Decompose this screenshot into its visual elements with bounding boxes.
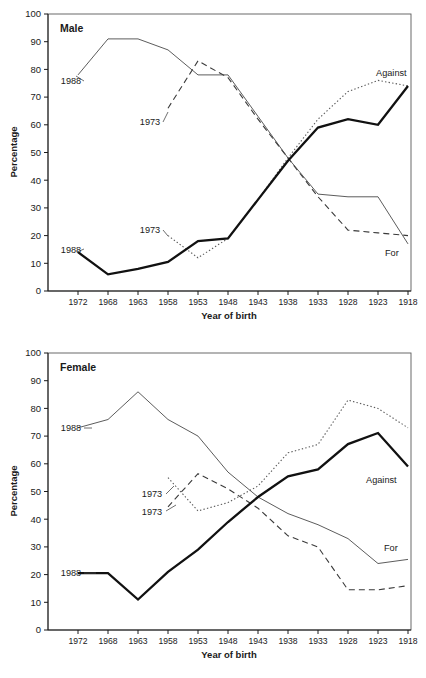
- y-tick-label: 90: [30, 375, 41, 386]
- y-tick-label: 0: [36, 624, 41, 635]
- y-tick-label: 40: [30, 175, 41, 186]
- male-chart-svg: 0 10 20 30 40 50 60 70 80 90 100: [0, 0, 426, 339]
- plot-frame: [48, 353, 411, 630]
- edge-label-for: For: [384, 543, 398, 553]
- x-tick-labels: 1972 1968 1963 1958 1953 1948 1943 1938 …: [68, 297, 417, 307]
- x-tick-label: 1968: [98, 297, 117, 307]
- x-tick-label: 1963: [128, 636, 147, 646]
- figure-page: 0 10 20 30 40 50 60 70 80 90 100: [0, 0, 426, 678]
- annotation-1988-for: 1988: [61, 423, 81, 433]
- x-tick-label: 1948: [218, 297, 237, 307]
- y-tick-label: 100: [25, 8, 41, 19]
- x-tick-label: 1928: [338, 636, 357, 646]
- y-tick-labels: 0 10 20 30 40 50 60 70 80 90 100: [25, 8, 41, 296]
- chart-panel-male: 0 10 20 30 40 50 60 70 80 90 100: [0, 0, 426, 339]
- x-tick-label: 1923: [368, 636, 387, 646]
- y-tick-label: 30: [30, 541, 41, 552]
- series-line-1973-for: [168, 61, 408, 236]
- y-tick-label: 20: [30, 230, 41, 241]
- panel-title-female: Female: [60, 361, 96, 373]
- x-tick-label: 1933: [308, 636, 327, 646]
- x-tick-label: 1972: [68, 297, 87, 307]
- y-tick-label: 60: [30, 458, 41, 469]
- x-tick-label: 1972: [68, 636, 87, 646]
- annotation-1988-against: 1988: [61, 245, 81, 255]
- annotation-1973-for: 1973: [142, 489, 162, 499]
- series-line-1988-against: [78, 433, 408, 600]
- series-line-1973-against: [168, 80, 408, 257]
- y-axis-title: Percentage: [8, 126, 19, 177]
- x-tick-label: 1963: [128, 297, 147, 307]
- annotation-1973-against: 1973: [140, 225, 160, 235]
- x-tick-label: 1928: [338, 297, 357, 307]
- y-tick-label: 90: [30, 36, 41, 47]
- annotation-1988-for: 1988: [61, 76, 81, 86]
- x-tick-label: 1958: [158, 636, 177, 646]
- x-tick-label: 1938: [278, 297, 297, 307]
- series-line-1988-against: [78, 86, 408, 274]
- female-chart-svg: 0 10 20 30 40 50 60 70 80 90 100: [0, 339, 426, 678]
- y-tick-label: 70: [30, 91, 41, 102]
- x-tick-label: 1953: [188, 297, 207, 307]
- y-tick-label: 60: [30, 119, 41, 130]
- annotation-1973-against: 1973: [142, 507, 162, 517]
- y-tick-label: 100: [25, 347, 41, 358]
- y-tick-label: 20: [30, 569, 41, 580]
- x-tick-label: 1918: [398, 636, 417, 646]
- x-tick-marks: [78, 291, 408, 295]
- x-tick-marks: [78, 630, 408, 634]
- series-line-1988-for: [78, 39, 408, 244]
- x-axis-title: Year of birth: [201, 649, 257, 660]
- series-line-1973-for: [168, 474, 408, 590]
- x-axis-title: Year of birth: [201, 310, 257, 321]
- x-tick-label: 1923: [368, 297, 387, 307]
- x-tick-label: 1958: [158, 297, 177, 307]
- y-tick-label: 50: [30, 147, 41, 158]
- edge-label-against: Against: [366, 475, 397, 485]
- edge-label-for: For: [385, 248, 399, 258]
- y-tick-label: 10: [30, 597, 41, 608]
- x-tick-label: 1943: [248, 297, 267, 307]
- y-tick-label: 30: [30, 202, 41, 213]
- edge-label-against: Against: [376, 68, 407, 78]
- series-line-1988-for: [78, 392, 408, 564]
- y-tick-labels: 0 10 20 30 40 50 60 70 80 90 100: [25, 347, 41, 635]
- panel-title-male: Male: [60, 22, 84, 34]
- x-tick-label: 1953: [188, 636, 207, 646]
- y-tick-label: 70: [30, 430, 41, 441]
- x-tick-label: 1918: [398, 297, 417, 307]
- series-line-1973-against: [168, 400, 408, 511]
- annotation-1988-against: 1988: [61, 568, 81, 578]
- y-tick-label: 50: [30, 486, 41, 497]
- y-tick-marks: [44, 353, 48, 630]
- x-tick-label: 1943: [248, 636, 267, 646]
- plot-frame: [48, 14, 411, 291]
- x-tick-label: 1933: [308, 297, 327, 307]
- y-tick-label: 0: [36, 285, 41, 296]
- y-tick-label: 40: [30, 514, 41, 525]
- annotation-1973-for: 1973: [140, 117, 160, 127]
- y-tick-label: 80: [30, 64, 41, 75]
- y-tick-marks: [44, 14, 48, 291]
- x-tick-label: 1968: [98, 636, 117, 646]
- chart-panel-female: 0 10 20 30 40 50 60 70 80 90 100: [0, 339, 426, 678]
- x-tick-label: 1948: [218, 636, 237, 646]
- x-tick-labels: 1972 1968 1963 1958 1953 1948 1943 1938 …: [68, 636, 417, 646]
- y-tick-label: 10: [30, 258, 41, 269]
- x-tick-label: 1938: [278, 636, 297, 646]
- y-axis-title: Percentage: [8, 465, 19, 516]
- annotation-leaders: [84, 428, 176, 573]
- y-tick-label: 80: [30, 403, 41, 414]
